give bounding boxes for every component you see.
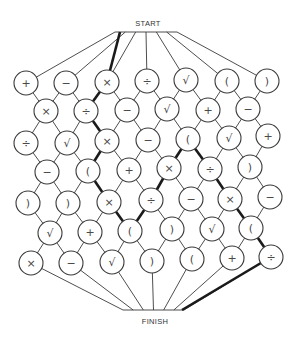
- divide-icon: ÷: [81, 105, 90, 118]
- plus-icon: +: [227, 252, 236, 265]
- square-root-icon: √: [225, 132, 233, 145]
- divide-icon: ÷: [205, 163, 214, 176]
- close-paren-icon: ): [150, 255, 154, 268]
- open-paren-icon: (: [249, 222, 253, 235]
- square-root-icon: √: [182, 74, 190, 87]
- lattice-node: +: [256, 124, 280, 148]
- minus-icon: −: [122, 104, 131, 117]
- lattice-node: ÷: [74, 99, 98, 123]
- minus-icon: −: [143, 134, 152, 147]
- lattice-node: (: [76, 159, 100, 183]
- plus-icon: +: [203, 104, 212, 117]
- plus-icon: +: [21, 77, 30, 90]
- lattice-node: √: [217, 126, 241, 150]
- finish-label: FINISH: [142, 317, 168, 326]
- lattice-node: √: [200, 217, 224, 241]
- lattice-node: −: [179, 187, 203, 211]
- multiply-icon: ×: [102, 135, 111, 148]
- open-paren-icon: (: [190, 253, 194, 266]
- lattice-node: +: [117, 158, 141, 182]
- lattice-node: ): [255, 69, 279, 93]
- close-paren-icon: ): [248, 161, 252, 174]
- multiply-icon: ×: [26, 257, 35, 270]
- lattice-node: ×: [34, 99, 58, 123]
- lattice-node: (: [180, 247, 204, 271]
- divide-icon: ÷: [266, 251, 275, 264]
- lattice-node: ÷: [198, 157, 222, 181]
- divide-icon: ÷: [146, 194, 155, 207]
- open-paren-icon: (: [86, 165, 90, 178]
- multiply-icon: ×: [102, 76, 111, 89]
- square-root-icon: √: [108, 256, 116, 269]
- square-root-icon: √: [208, 223, 216, 236]
- open-paren-icon: (: [128, 225, 132, 238]
- lattice-node: ÷: [139, 188, 163, 212]
- lattice-node: ): [56, 191, 80, 215]
- close-paren-icon: ): [26, 197, 30, 210]
- open-paren-icon: (: [225, 75, 229, 88]
- lattice-node: −: [236, 97, 260, 121]
- minus-icon: −: [243, 103, 252, 116]
- plus-icon: +: [124, 164, 133, 177]
- lattice-node: +: [220, 246, 244, 270]
- minus-icon: −: [186, 193, 195, 206]
- square-root-icon: √: [63, 137, 71, 150]
- plus-icon: +: [85, 226, 94, 239]
- minus-icon: −: [42, 166, 51, 179]
- operator-lattice-diagram: +−×÷√()×÷−√+−÷√×−(√+−(+×÷)))×÷−×−√+()√(×…: [0, 0, 307, 345]
- lattice-node: (: [215, 69, 239, 93]
- lattice-node: ÷: [14, 131, 38, 155]
- lattice-node: +: [78, 220, 102, 244]
- lattice-node: ): [238, 155, 262, 179]
- multiply-icon: ×: [41, 105, 50, 118]
- lattice-node: ×: [97, 190, 121, 214]
- minus-icon: −: [265, 191, 274, 204]
- open-paren-icon: (: [186, 133, 190, 146]
- divide-icon: ÷: [142, 75, 151, 88]
- close-paren-icon: ): [170, 223, 174, 236]
- multiply-icon: ×: [164, 162, 173, 175]
- plus-icon: +: [263, 130, 272, 143]
- lattice-node: −: [59, 251, 83, 275]
- minus-icon: −: [66, 257, 75, 270]
- lattice-node: ): [160, 217, 184, 241]
- lattice-node: ×: [95, 70, 119, 94]
- lattice-node: +: [196, 98, 220, 122]
- multiply-icon: ×: [104, 196, 113, 209]
- lattice-node: −: [258, 185, 282, 209]
- lattice-node: √: [155, 97, 179, 121]
- minus-icon: −: [61, 77, 70, 90]
- lattice-node: +: [14, 71, 38, 95]
- lattice-node: √: [55, 131, 79, 155]
- lattice-node: ×: [95, 129, 119, 153]
- lattice-node: ÷: [259, 245, 283, 269]
- lattice-node: (: [118, 219, 142, 243]
- lattice-node: (: [239, 216, 263, 240]
- close-paren-icon: ): [265, 75, 269, 88]
- lattice-node: ×: [157, 156, 181, 180]
- lattice-node: √: [38, 221, 62, 245]
- close-paren-icon: ): [66, 197, 70, 210]
- divide-icon: ÷: [21, 137, 30, 150]
- lattice-node: −: [136, 128, 160, 152]
- start-label: START: [135, 19, 161, 28]
- lattice-node: −: [35, 160, 59, 184]
- square-root-icon: √: [46, 227, 54, 240]
- lattice-node: ×: [218, 187, 242, 211]
- lattice-node: √: [100, 250, 124, 274]
- lattice-node: −: [115, 98, 139, 122]
- lattice-node: ÷: [135, 69, 159, 93]
- multiply-icon: ×: [225, 193, 234, 206]
- lattice-node: ): [140, 249, 164, 273]
- lattice-node: √: [174, 68, 198, 92]
- lattice-node: ): [16, 191, 40, 215]
- lattice-node: ×: [19, 251, 43, 275]
- square-root-icon: √: [163, 103, 171, 116]
- lattice-node: −: [54, 71, 78, 95]
- lattice-node: (: [176, 127, 200, 151]
